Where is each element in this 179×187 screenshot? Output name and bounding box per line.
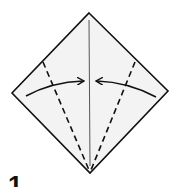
origami-diagram: [0, 0, 179, 187]
step-number: 1: [8, 172, 22, 187]
